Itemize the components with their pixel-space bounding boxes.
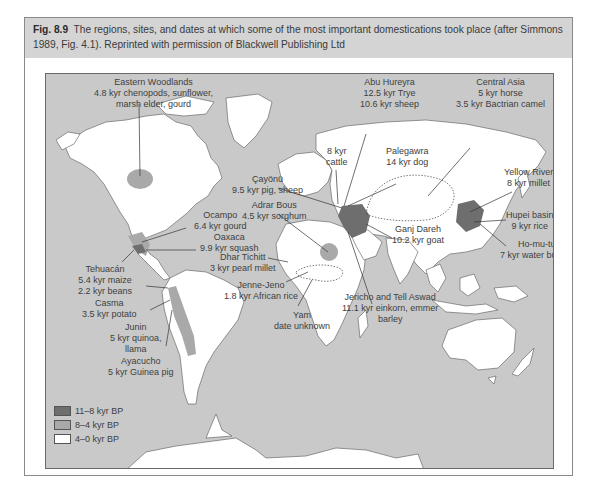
label-line: Jericho and Tell Aswad (342, 292, 438, 303)
label-line: Yam (274, 310, 330, 321)
legend-swatch-dark (54, 406, 71, 416)
label-line: 5 kyr horse (456, 88, 545, 99)
label-ho-mu-tu: Ho-mu-tu 7 kyr water buffalo (500, 239, 554, 261)
new-guinea-island (494, 286, 528, 302)
label-yellow-river: Yellow River 8 kyr millet (504, 167, 553, 189)
world-map: Eastern Woodlands 4.8 kyr chenopods, sun… (45, 73, 554, 469)
label-central-asia: Central Asia 5 kyr horse 3.5 kyr Bactria… (456, 77, 545, 110)
label-line: Jenne-Jeno (224, 280, 298, 291)
label-line: Ho-mu-tu (500, 239, 554, 250)
legend-label: 4–0 kyr BP (75, 434, 119, 444)
antarctica-landmass (126, 438, 424, 469)
region-adrar-bous (320, 243, 338, 261)
label-line: Ganj Dareh (392, 224, 444, 235)
label-line: 8 kyr (326, 146, 348, 157)
label-tehuacan: Tehuacán 5.4 kyr maize 2.2 kyr beans (78, 264, 132, 297)
label-ganj-dareh: Ganj Dareh 10.2 kyr goat (392, 224, 444, 246)
label-line: Tehuacán (78, 264, 132, 275)
label-line: Dhar Tichitt (210, 252, 276, 263)
label-line: Abu Hureyra (360, 77, 419, 88)
figure-number: Fig. 8.9 (33, 24, 68, 35)
greenland-landmass (226, 94, 272, 148)
figure-caption-text: The regions, sites, and dates at which s… (33, 24, 563, 50)
label-line: cattle (326, 157, 348, 168)
label-line: Adrar Bous (242, 200, 307, 211)
figure-caption: Fig. 8.9 The regions, sites, and dates a… (25, 18, 572, 58)
label-line: 4.5 kyr sorghum (242, 211, 307, 222)
label-adrar-bous: Adrar Bous 4.5 kyr sorghum (242, 200, 307, 222)
label-hupei-basin: Hupei basin 9 kyr rice (506, 210, 554, 232)
label-line: Yellow River (504, 167, 553, 178)
label-line: 8 kyr millet (504, 178, 553, 189)
label-line: 5 kyr Guinea pig (108, 367, 174, 378)
label-line: Hupei basin (506, 210, 554, 221)
label-palegawra: Palegawra 14 kyr dog (386, 146, 429, 168)
label-line: 6.4 kyr gourd (194, 221, 247, 232)
label-line: 5.4 kyr maize (78, 275, 132, 286)
label-casma: Casma 3.5 kyr potato (82, 298, 137, 320)
label-yam: Yam date unknown (274, 310, 330, 332)
label-line: 7 kyr water buffalo (500, 250, 554, 261)
legend-label: 11–8 kyr BP (75, 406, 123, 416)
label-line: Junin (110, 322, 162, 333)
label-line: 9 kyr rice (506, 221, 554, 232)
label-line: 2.2 kyr beans (78, 286, 132, 297)
legend-item-8-4: 8–4 kyr BP (54, 418, 123, 432)
antarctic-peninsula (206, 414, 232, 438)
label-ocampo: Ocampo 6.4 kyr gourd (194, 210, 247, 232)
label-line: 10.2 kyr goat (392, 235, 444, 246)
label-line: 3.5 kyr Bactrian camel (456, 99, 545, 110)
legend-item-4-0: 4–0 kyr BP (54, 432, 123, 446)
indonesia-islands (432, 300, 498, 314)
label-line: 12.5 kyr Trye (360, 88, 419, 99)
label-line: 14 kyr dog (386, 157, 429, 168)
label-jericho-tell-aswad: Jericho and Tell Aswad 11.1 kyr einkorn,… (342, 292, 438, 325)
label-jenne-jeno: Jenne-Jeno 1.8 kyr African rice (224, 280, 298, 302)
label-line: Ocampo (194, 210, 247, 221)
label-line: 9.5 kyr pig, sheep (232, 185, 303, 196)
label-junin: Junin 5 kyr quinoa, llama (110, 322, 162, 355)
legend-item-11-8: 11–8 kyr BP (54, 404, 123, 418)
label-dhar-tichitt: Dhar Tichitt 3 kyr pearl millet (210, 252, 276, 274)
new-zealand-islands (512, 348, 534, 376)
label-line: Eastern Woodlands (94, 77, 213, 88)
label-line: date unknown (274, 321, 330, 332)
label-oaxaca: Oaxaca 9.9 kyr squash (200, 232, 259, 254)
label-line: Central Asia (456, 77, 545, 88)
legend-label: 8–4 kyr BP (75, 420, 119, 430)
label-line: Palegawra (386, 146, 429, 157)
australia-landmass (442, 318, 516, 370)
label-ayacucho: Ayacucho 5 kyr Guinea pig (108, 356, 174, 378)
label-line: Çayönü (232, 174, 303, 185)
label-line: llama (110, 344, 162, 355)
borneo-island (460, 274, 480, 296)
label-line: barley (342, 314, 438, 325)
label-line: Ayacucho (108, 356, 174, 367)
label-line: 11.1 kyr einkorn, emmer (342, 303, 438, 314)
figure-box: Fig. 8.9 The regions, sites, and dates a… (24, 17, 573, 476)
label-line: 10.6 kyr sheep (360, 99, 419, 110)
legend-swatch-medium (54, 420, 71, 430)
label-line: 5 kyr quinoa, (110, 333, 162, 344)
label-cattle: 8 kyr cattle (326, 146, 348, 168)
label-line: 3 kyr pearl millet (210, 263, 276, 274)
legend-swatch-white (54, 434, 71, 444)
label-abu-hureyra: Abu Hureyra 12.5 kyr Trye 10.6 kyr sheep (360, 77, 419, 110)
label-line: 4.8 kyr chenopods, sunflower, (94, 88, 213, 99)
label-line: marsh elder, gourd (94, 99, 213, 110)
tasmania-island (488, 376, 496, 384)
label-line: Oaxaca (200, 232, 259, 243)
label-line: 3.5 kyr potato (82, 309, 137, 320)
map-legend: 11–8 kyr BP 8–4 kyr BP 4–0 kyr BP (54, 404, 123, 446)
label-line: Casma (82, 298, 137, 309)
label-line: 1.8 kyr African rice (224, 291, 298, 302)
label-cayonu: Çayönü 9.5 kyr pig, sheep (232, 174, 303, 196)
label-eastern-woodlands: Eastern Woodlands 4.8 kyr chenopods, sun… (94, 77, 213, 110)
